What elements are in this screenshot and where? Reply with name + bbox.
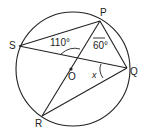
angle-label-110: 110° — [50, 37, 70, 48]
label-P: P — [100, 7, 107, 18]
angle-arc-x — [100, 64, 103, 78]
circle-diagram: P S Q R O 110° 60° x — [0, 0, 149, 132]
label-O: O — [68, 71, 76, 82]
angle-arc-110 — [61, 48, 80, 54]
label-R: R — [35, 118, 42, 129]
angle-label-60: 60° — [93, 40, 108, 51]
label-Q: Q — [130, 66, 138, 77]
label-S: S — [9, 40, 16, 51]
angle-label-x: x — [91, 70, 97, 80]
diagram: P S Q R O 110° 60° x — [0, 0, 149, 132]
